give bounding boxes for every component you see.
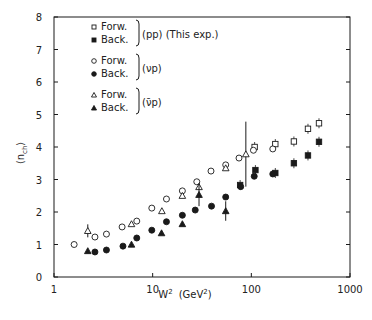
filled-triangle-marker [128,241,135,247]
open-triangle-marker [243,151,250,157]
filled-triangle-marker [222,208,229,214]
filled-triangle-marker [196,191,203,197]
legend-brace [136,88,139,114]
plot-frame [54,17,350,277]
open-triangle-marker [91,92,96,97]
filled-circle-marker [92,249,98,255]
filled-triangle-marker [84,248,91,254]
open-circle-marker [208,168,214,174]
multiplicity-scatter-plot: 012345678 1101001000 Forw.Back.(pp) (Thi… [0,0,372,320]
y-tick-label: 2 [36,207,42,218]
legend-brace [136,54,139,80]
data-points [71,118,322,255]
y-tick-label: 3 [36,175,42,186]
open-circle-marker [270,146,276,152]
filled-square-marker [291,161,296,166]
legend-entry-label: Back. [101,102,128,113]
open-circle-marker [236,155,242,161]
open-square-marker [316,121,321,126]
open-circle-marker [92,234,98,240]
filled-circle-marker [134,235,140,241]
open-triangle-marker [159,208,166,214]
plot-border [54,17,350,277]
legend-group: Forw.Back.(pp) (This exp.) [92,20,219,46]
filled-circle-marker [120,243,126,249]
legend-entry-label: Forw. [101,55,127,66]
legend-entry-label: Forw. [101,21,127,32]
y-tick-label: 6 [36,77,42,88]
filled-circle-marker [209,203,215,209]
filled-triangle-marker [179,221,186,227]
y-tick-label: 7 [36,45,42,56]
filled-circle-marker [238,184,244,190]
filled-circle-marker [192,207,198,213]
filled-circle-marker [270,171,276,177]
open-circle-marker [92,59,97,64]
open-square-marker [305,126,310,131]
x-axis-label: W2(GeV2) [158,288,211,300]
y-axis-label: ⟨nch⟩ [15,142,29,165]
open-circle-marker [149,205,155,211]
y-tick-label: 5 [36,110,42,121]
y-tick-label: 8 [36,12,42,23]
filled-circle-marker [163,219,169,225]
series [84,183,229,253]
legend-entry-label: Forw. [101,89,127,100]
filled-square-marker [92,38,96,42]
series [71,146,276,248]
filled-circle-marker [179,212,185,218]
open-square-marker [291,139,296,144]
filled-circle-marker [223,194,229,200]
filled-triangle-marker [158,230,165,236]
legend-entry-label: Back. [101,34,128,45]
chart: 012345678 1101001000 Forw.Back.(pp) (Thi… [0,0,372,320]
filled-triangle-marker [91,105,96,110]
series [252,118,322,152]
x-tick-label: 10 [146,284,159,295]
legend: Forw.Back.(pp) (This exp.)Forw.Back.(νp)… [91,20,218,114]
open-circle-marker [250,147,256,153]
filled-square-marker [316,139,321,144]
legend-group-label: (νp) [142,63,162,74]
open-square-marker [92,25,96,29]
legend-group-label: (ν̄p) [142,97,162,108]
legend-group: Forw.Back.(νp) [92,54,162,80]
filled-square-marker [253,167,258,172]
y-axis: 012345678 [36,12,350,283]
open-triangle-marker [84,228,91,234]
y-tick-label: 4 [36,142,42,153]
legend-group-label: (pp) (This exp.) [142,29,219,40]
legend-group: Forw.Back.(ν̄p) [91,88,161,114]
filled-circle-marker [103,247,109,253]
x-tick-label: 1 [51,284,57,295]
x-tick-label: 100 [242,284,261,295]
open-circle-marker [134,218,140,224]
filled-square-marker [305,153,310,158]
legend-brace [136,20,139,46]
legend-entry-label: Back. [101,68,128,79]
open-circle-marker [103,231,109,237]
y-tick-label: 0 [36,272,42,283]
filled-circle-marker [149,227,155,233]
open-circle-marker [163,196,169,202]
series [92,171,276,255]
open-circle-marker [119,224,125,230]
series [237,137,321,190]
y-tick-label: 1 [36,240,42,251]
open-circle-marker [71,242,77,248]
x-tick-label: 1000 [337,284,362,295]
filled-circle-marker [251,173,257,179]
filled-circle-marker [92,72,97,77]
